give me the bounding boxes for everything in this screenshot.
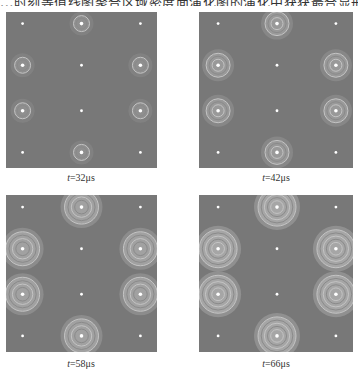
panel-label-t32: t=32μs	[6, 172, 156, 183]
panel-label-t58: t=58μs	[6, 358, 156, 369]
figure-caption-top-cropped: ...时刻等值线图聚合区域密度面演化图的演化中获获最合显形成...	[0, 0, 358, 6]
density-contour-plot-icon	[6, 195, 157, 352]
density-contour-plot-icon	[199, 195, 353, 352]
panel-label-t42: t=42μs	[201, 172, 351, 183]
density-contour-plot-icon	[6, 12, 157, 168]
panel-t42	[199, 12, 353, 168]
density-contour-plot-icon	[199, 12, 353, 168]
panel-t66	[199, 195, 353, 352]
panel-t32	[6, 12, 157, 168]
panel-label-t66: t=66μs	[201, 358, 351, 369]
panel-t58	[6, 195, 157, 352]
